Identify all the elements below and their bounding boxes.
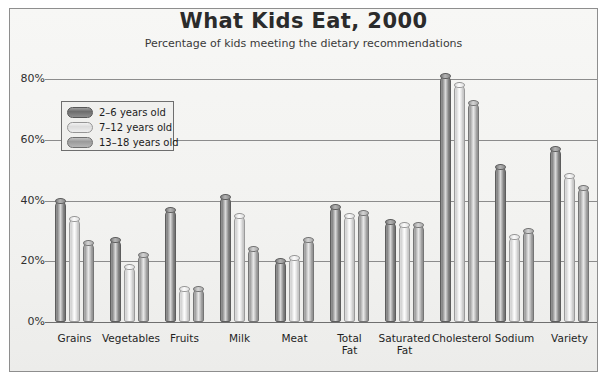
x-tick-label-5: TotalFat [322,332,377,356]
x-tick-label-4: Meat [267,332,322,344]
x-tick-label-7: Cholesterol [432,332,487,344]
bar-cap-icon [165,207,176,213]
bar-cap-icon [138,252,149,258]
bar-3-series-1 [234,216,245,322]
bar-cap-icon [495,164,506,170]
bar-9-series-2 [578,188,589,322]
bar-1-series-1 [124,267,135,322]
bar-4-series-1 [289,258,300,322]
bar-cap-icon [399,222,410,228]
bar-cap-icon [83,240,94,246]
bar-cap-icon [358,210,369,216]
bar-cap-icon [413,222,424,228]
bar-4-series-2 [303,240,314,322]
bar-cap-icon [385,219,396,225]
bar-5-series-1 [344,216,355,322]
bar-cap-icon [220,194,231,200]
bar-cap-icon [124,264,135,270]
bars-layer [0,0,607,382]
bar-4-series-0 [275,261,286,322]
legend-item-0: 2–6 years old [67,106,166,119]
bar-9-series-1 [564,176,575,322]
chart-legend: 2–6 years old 7–12 years old 13–18 years… [61,101,174,151]
bar-5-series-0 [330,207,341,322]
bar-8-series-0 [495,167,506,322]
bar-2-series-1 [179,289,190,322]
bar-0-series-2 [83,243,94,322]
x-tick-label-0: Grains [47,332,102,344]
bar-cap-icon [55,198,66,204]
bar-6-series-1 [399,225,410,322]
legend-label-series-2: 13–18 years old [99,137,179,148]
bar-cap-icon [509,234,520,240]
bar-3-series-2 [248,249,259,322]
bar-cap-icon [303,237,314,243]
bar-1-series-2 [138,255,149,322]
legend-swatch-series-0 [67,107,93,118]
bar-cap-icon [344,213,355,219]
chart-page: What Kids Eat, 2000 Percentage of kids m… [0,0,607,382]
bar-cap-icon [454,82,465,88]
bar-cap-icon [193,286,204,292]
bar-2-series-2 [193,289,204,322]
legend-item-2: 13–18 years old [67,136,179,149]
x-tick-label-6: SaturatedFat [377,332,432,356]
legend-label-series-1: 7–12 years old [99,122,172,133]
bar-3-series-0 [220,197,231,322]
bar-1-series-0 [110,240,121,322]
bar-cap-icon [110,237,121,243]
bar-8-series-1 [509,237,520,322]
bar-9-series-0 [550,149,561,322]
bar-cap-icon [234,213,245,219]
bar-7-series-2 [468,103,479,322]
x-tick-label-3: Milk [212,332,267,344]
x-tick-label-2: Fruits [157,332,212,344]
bar-0-series-1 [69,219,80,322]
x-tick-label-9: Variety [542,332,597,344]
legend-swatch-series-2 [67,137,93,148]
bar-0-series-0 [55,201,66,323]
legend-swatch-series-1 [67,122,93,133]
bar-cap-icon [275,258,286,264]
bar-cap-icon [330,204,341,210]
bar-2-series-0 [165,210,176,322]
legend-label-series-0: 2–6 years old [99,107,166,118]
bar-cap-icon [440,73,451,79]
bar-7-series-0 [440,76,451,322]
bar-cap-icon [523,228,534,234]
bar-cap-icon [564,173,575,179]
bar-cap-icon [69,216,80,222]
bar-cap-icon [289,255,300,261]
bar-cap-icon [468,100,479,106]
legend-item-1: 7–12 years old [67,121,172,134]
x-tick-label-8: Sodium [487,332,542,344]
bar-6-series-0 [385,222,396,322]
bar-8-series-2 [523,231,534,322]
bar-cap-icon [248,246,259,252]
bar-6-series-2 [413,225,424,322]
bar-7-series-1 [454,85,465,322]
bar-5-series-2 [358,213,369,322]
x-tick-label-1: Vegetables [102,332,157,344]
bar-cap-icon [179,286,190,292]
bar-cap-icon [550,146,561,152]
bar-cap-icon [578,185,589,191]
